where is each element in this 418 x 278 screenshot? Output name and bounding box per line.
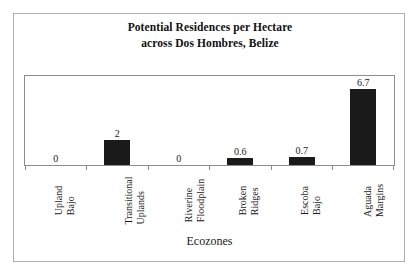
x-tick-label-line-1: Broken xyxy=(237,186,249,215)
x-tick-label-line-1: Escoba xyxy=(299,186,311,215)
bar-group-riverine-floodplain: 0 xyxy=(148,76,210,165)
bar-value-label: 2 xyxy=(115,128,120,139)
x-tick-label-upland-bajo: Upland Bajo xyxy=(25,170,87,232)
bar-value-label: 0.7 xyxy=(296,145,309,156)
x-tick-label-line-2: Uplands xyxy=(135,177,147,225)
x-tick-label-line-2: Bajo xyxy=(64,186,76,215)
chart-screenshot: Potential Residences per Hectare across … xyxy=(0,0,418,278)
x-tick-label-line-1: Transitional xyxy=(124,177,136,225)
bar-value-label: 0 xyxy=(176,153,181,164)
plot-area: 0 2 0 0.6 0.7 xyxy=(25,76,394,165)
x-axis-title: Ecozones xyxy=(24,234,395,249)
bar-group-escoba-bajo: 0.7 xyxy=(271,76,333,165)
bar-group-transitional-uplands: 2 xyxy=(87,76,149,165)
bar-broken-ridges: 0.6 xyxy=(227,158,253,165)
chart-title: Potential Residences per Hectare across … xyxy=(24,19,396,51)
x-tick-label-line-2: Bajo xyxy=(310,186,322,215)
bar-value-label: 0.6 xyxy=(234,146,247,157)
bar-series: 0 2 0 0.6 0.7 xyxy=(25,76,394,165)
x-tick-label-line-2: Ridges xyxy=(249,186,261,215)
x-tick-label-line-2: Floodplain xyxy=(194,179,206,222)
x-tick-label-line-1: Aguada xyxy=(362,184,374,217)
bar-transitional-uplands: 2 xyxy=(104,140,130,165)
x-axis-category-labels: Upland Bajo Transitional Uplands Riverin… xyxy=(25,170,394,232)
x-tick-label-line-1: Riverine xyxy=(183,179,195,222)
bar-value-label: 0 xyxy=(53,153,58,164)
x-tick-label-line-1: Upland xyxy=(53,186,65,215)
bar-group-broken-ridges: 0.6 xyxy=(210,76,272,165)
x-tick-label-aguada-margins: Aguada Margins xyxy=(333,170,395,232)
chart-title-line-1: Potential Residences per Hectare xyxy=(24,19,396,35)
x-tick-label-line-2: Margins xyxy=(374,184,386,217)
chart-title-line-2: across Dos Hombres, Belize xyxy=(24,35,396,51)
x-tick-label-riverine-floodplain: Riverine Floodplain xyxy=(148,170,210,232)
bar-escoba-bajo: 0.7 xyxy=(289,157,315,165)
bar-group-upland-bajo: 0 xyxy=(25,76,87,165)
x-tick-label-transitional-uplands: Transitional Uplands xyxy=(87,170,149,232)
x-tick-label-escoba-bajo: Escoba Bajo xyxy=(271,170,333,232)
bar-aguada-margins: 6.7 xyxy=(350,89,376,165)
bar-group-aguada-margins: 6.7 xyxy=(333,76,395,165)
bar-value-label: 6.7 xyxy=(357,77,370,88)
x-tick-label-broken-ridges: Broken Ridges xyxy=(210,170,272,232)
